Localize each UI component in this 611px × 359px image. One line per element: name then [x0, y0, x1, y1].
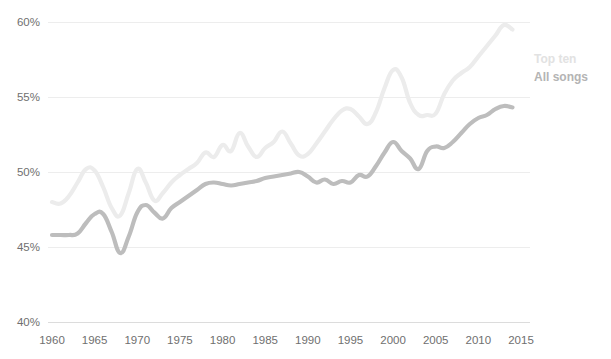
x-axis-tick-label: 1995 — [338, 334, 364, 346]
y-axis-tick-label: 45% — [17, 241, 40, 253]
x-axis-tick-label: 1970 — [124, 334, 150, 346]
x-axis-tick-label: 2015 — [508, 334, 534, 346]
legend-item-top-ten[interactable]: Top ten — [534, 52, 576, 66]
x-axis-tick-label: 2010 — [466, 334, 492, 346]
x-axis-tick-label: 1990 — [295, 334, 321, 346]
y-axis-tick-label: 60% — [17, 16, 40, 28]
x-axis-tick-label: 1960 — [39, 334, 65, 346]
y-axis-tick-label: 40% — [17, 316, 40, 328]
y-axis-tick-label: 50% — [17, 166, 40, 178]
x-axis-tick-label: 2000 — [380, 334, 406, 346]
x-axis-tick-label: 1985 — [252, 334, 278, 346]
x-axis-tick-label: 1965 — [82, 334, 108, 346]
legend-item-all-songs[interactable]: All songs — [534, 70, 588, 84]
chart-background — [0, 0, 611, 359]
x-axis-tick-label: 1975 — [167, 334, 193, 346]
line-chart: 40%45%50%55%60% 196019651970197519801985… — [0, 0, 611, 359]
x-axis-tick-label: 1980 — [210, 334, 236, 346]
y-axis-tick-label: 55% — [17, 91, 40, 103]
x-axis-tick-label: 2005 — [423, 334, 449, 346]
chart-canvas: 40%45%50%55%60% 196019651970197519801985… — [0, 0, 611, 359]
